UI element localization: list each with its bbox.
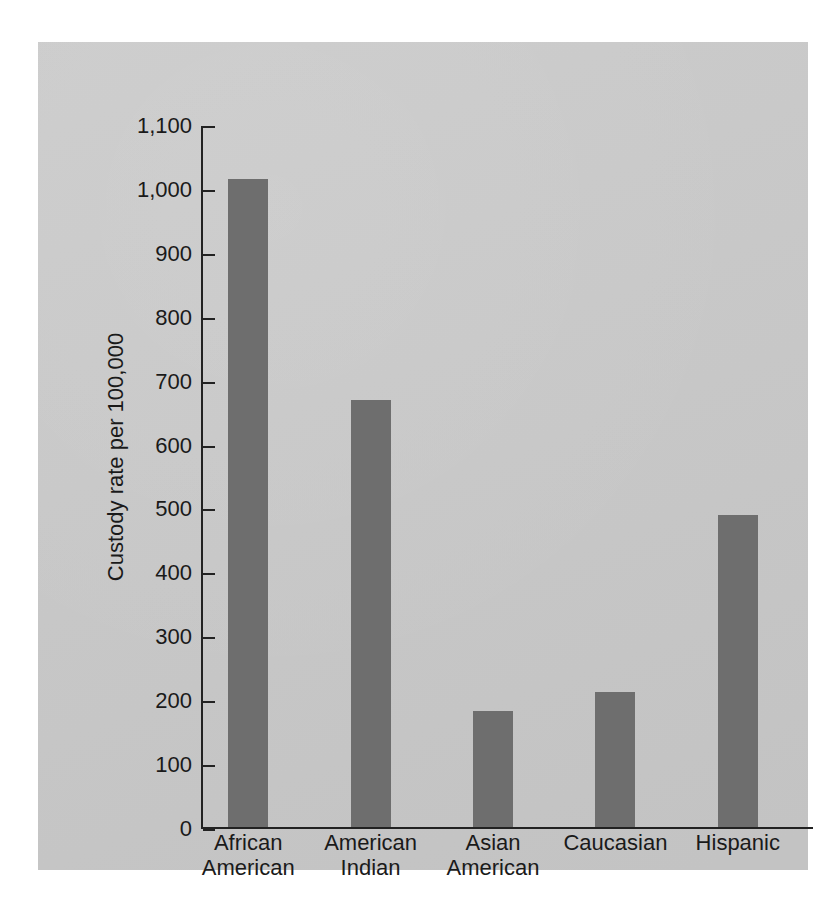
x-axis-line (201, 827, 813, 829)
y-axis-line (201, 126, 203, 829)
y-axis-tick-mark (203, 382, 215, 384)
y-axis-tick-label: 1,000 (137, 179, 192, 201)
y-axis-tick-label: 1,100 (137, 115, 192, 137)
y-axis-tick-label: 600 (155, 435, 192, 457)
y-axis-tick-label: 500 (155, 498, 192, 520)
bar (473, 711, 513, 827)
chart-panel: Custody rate per 100,000 1,1001,00090080… (38, 42, 808, 870)
y-axis-tick-mark (203, 637, 215, 639)
y-axis-tick-label: 400 (155, 562, 192, 584)
y-axis-tick-label: 900 (155, 243, 192, 265)
category-label-line1: Asian (465, 830, 520, 855)
category-label-line1: African (214, 830, 282, 855)
category-label-line2: Indian (324, 856, 417, 881)
bar (595, 692, 635, 827)
x-axis-category-label: AsianAmerican (447, 831, 540, 880)
category-label-line1: Caucasian (563, 830, 667, 855)
plot-area: 1,1001,0009008007006005004003002001000 A… (201, 126, 813, 829)
y-axis-tick-mark (203, 509, 215, 511)
y-axis-tick-label: 0 (180, 818, 192, 840)
bar (351, 400, 391, 827)
y-axis-tick-label: 800 (155, 307, 192, 329)
x-axis-category-label: AmericanIndian (324, 831, 417, 880)
category-label-line1: American (324, 830, 417, 855)
figure: Custody rate per 100,000 1,1001,00090080… (0, 0, 834, 902)
y-axis-tick-mark (203, 254, 215, 256)
x-axis-category-label: Hispanic (696, 831, 780, 856)
y-axis-tick-mark (203, 573, 215, 575)
y-axis-tick-mark (203, 701, 215, 703)
y-axis-tick-mark (203, 765, 215, 767)
y-axis-tick-label: 700 (155, 371, 192, 393)
category-label-line2: American (447, 856, 540, 881)
y-axis-tick-label: 300 (155, 626, 192, 648)
y-axis-tick-mark (203, 190, 215, 192)
category-label-line1: Hispanic (696, 830, 780, 855)
y-axis-tick-mark (203, 318, 215, 320)
bar (718, 515, 758, 827)
y-axis-tick-label: 100 (155, 754, 192, 776)
y-axis-tick-mark (203, 126, 215, 128)
x-axis-category-label: Caucasian (563, 831, 667, 856)
y-axis-title: Custody rate per 100,000 (102, 84, 130, 829)
bar (228, 179, 268, 827)
y-axis-title-text: Custody rate per 100,000 (103, 332, 129, 580)
y-axis-tick-mark (203, 446, 215, 448)
category-label-line2: American (202, 856, 295, 881)
y-axis-tick-label: 200 (155, 690, 192, 712)
x-axis-category-label: AfricanAmerican (202, 831, 295, 880)
